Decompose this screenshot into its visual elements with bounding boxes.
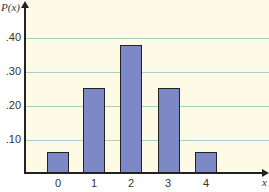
y-tick-label: .20 bbox=[1, 99, 21, 111]
gridline-30 bbox=[25, 72, 269, 73]
bar-0 bbox=[47, 152, 69, 174]
y-tick-label: .40 bbox=[1, 31, 21, 43]
plot-area bbox=[25, 0, 269, 173]
y-tick-label: .10 bbox=[1, 133, 21, 145]
x-tick-label: 0 bbox=[48, 177, 68, 189]
bar-1 bbox=[83, 88, 105, 174]
bar-3 bbox=[158, 88, 180, 174]
y-axis bbox=[24, 4, 26, 173]
bar-4 bbox=[195, 152, 217, 174]
x-axis-label: x bbox=[262, 176, 267, 188]
y-tick-label: .30 bbox=[1, 65, 21, 77]
gridline-40 bbox=[25, 38, 269, 39]
x-tick-label: 2 bbox=[121, 177, 141, 189]
x-tick-label: 3 bbox=[158, 177, 178, 189]
x-axis bbox=[24, 172, 263, 174]
y-axis-label: P(x) bbox=[1, 1, 20, 13]
gridline-10 bbox=[25, 140, 269, 141]
gridline-20 bbox=[25, 106, 269, 107]
y-axis-arrow-icon bbox=[21, 1, 29, 8]
x-tick-label: 4 bbox=[196, 177, 216, 189]
bar-2 bbox=[120, 45, 142, 174]
x-tick-label: 1 bbox=[84, 177, 104, 189]
